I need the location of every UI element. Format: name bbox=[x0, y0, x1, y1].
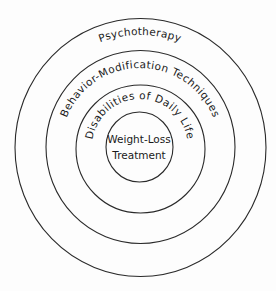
ring-label-psychotherapy: Psychotherapy bbox=[97, 25, 183, 44]
ring-label-behavior-modification: Behavior-Modification Techniques bbox=[57, 58, 222, 119]
concentric-diagram: Psychotherapy Behavior-Modification Tech… bbox=[0, 0, 276, 291]
center-label-line1: Weight-Loss bbox=[107, 133, 170, 145]
outer-ring bbox=[15, 19, 266, 277]
second-ring bbox=[46, 51, 235, 244]
inner-ring bbox=[106, 112, 173, 182]
diagram-canvas: Psychotherapy Behavior-Modification Tech… bbox=[0, 0, 276, 291]
center-label-line2: Treatment bbox=[111, 149, 165, 161]
